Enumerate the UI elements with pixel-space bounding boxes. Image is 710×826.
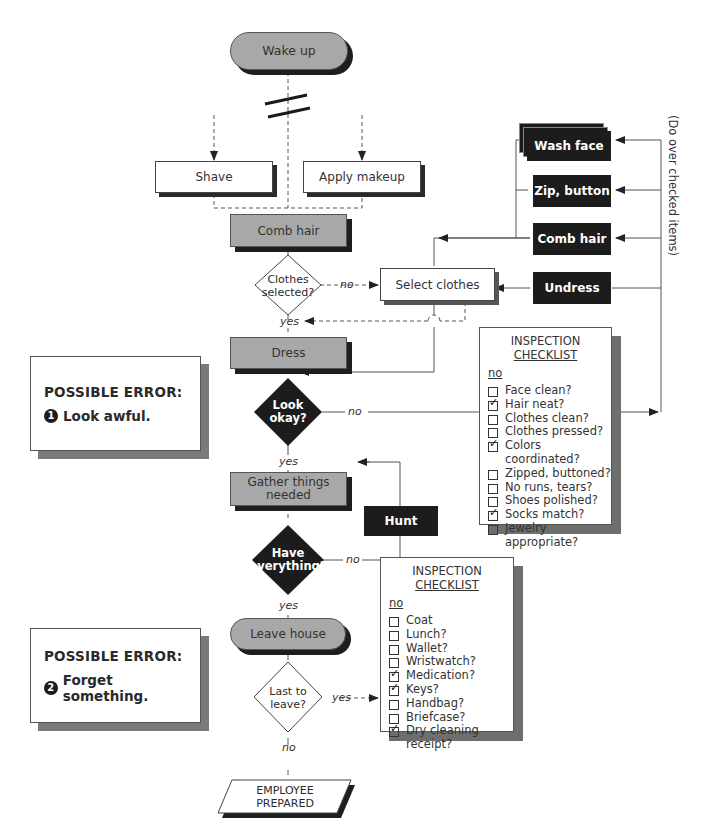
dress-box: Dress xyxy=(230,337,347,369)
checklist-title-line1: INSPECTION xyxy=(412,564,482,578)
error-text: Forget something. xyxy=(63,672,200,704)
no-label-last: no xyxy=(282,741,296,754)
checklist-item: Jewelry appropriate? xyxy=(488,522,611,550)
leave-house-terminal: Leave house xyxy=(230,618,346,650)
checklist-item-label: Hair neat? xyxy=(505,398,564,412)
last-to-leave-text: Last toleave? xyxy=(254,684,322,712)
comb-hair-label: Comb hair xyxy=(257,224,319,238)
gather-line2: needed xyxy=(266,488,311,502)
flowchart-canvas: Wake up Shave Apply makeup Comb hair Clo… xyxy=(0,0,710,826)
have-line1: Have xyxy=(272,546,305,560)
undress-box: Undress xyxy=(533,272,611,304)
select-clothes-label: Select clothes xyxy=(395,278,479,292)
shave-box: Shave xyxy=(155,161,273,193)
checklist-item-label: Handbag? xyxy=(406,697,464,711)
checklist-item-label: Shoes polished? xyxy=(505,494,598,508)
checklist-item: Medication? xyxy=(389,669,513,683)
checklist-item-label: No runs, tears? xyxy=(505,481,592,495)
checklist-item: Clothes pressed? xyxy=(488,425,611,439)
checklist-item: No runs, tears? xyxy=(488,481,611,495)
last-line2: leave? xyxy=(270,698,306,711)
look-line1: Look xyxy=(273,398,304,412)
comb-hair-box: Comb hair xyxy=(230,214,347,247)
checklist-item-label: Medication? xyxy=(406,669,475,683)
possible-error-2: POSSIBLE ERROR: 2 Forget something. xyxy=(30,628,201,723)
gather-things-box: Gather thingsneeded xyxy=(230,472,347,506)
look-line2: okay? xyxy=(269,411,306,425)
checklist-item-label: Clothes clean? xyxy=(505,412,589,426)
error-title: POSSIBLE ERROR: xyxy=(44,648,200,664)
zip-button-box: Zip, button xyxy=(533,175,611,207)
unchecked-box-icon xyxy=(488,525,498,535)
wash-face-box: Wash face xyxy=(527,131,611,161)
have-everything-text: Haveeverything? xyxy=(252,546,324,574)
checklist-item-line: Dry cleaning xyxy=(406,723,479,737)
checklist-item: Clothes clean? xyxy=(488,412,611,426)
do-over-note: (Do over checked items) xyxy=(666,115,680,256)
unchecked-box-icon xyxy=(389,700,399,710)
employee-prepared-text: EMPLOYEEPREPARED xyxy=(225,782,345,812)
number-1-icon: 1 xyxy=(44,409,58,423)
checklist-title-line1: INSPECTION xyxy=(511,334,581,348)
checklist-item: Socks match? xyxy=(488,508,611,522)
error-item: 1 Look awful. xyxy=(44,408,200,424)
error-title: POSSIBLE ERROR: xyxy=(44,384,200,400)
inspection-checklist-items: INSPECTION CHECKLIST no CoatLunch?Wallet… xyxy=(380,557,514,732)
look-okay-text: Lookokay? xyxy=(254,398,322,426)
checklist-no-header: no xyxy=(389,596,513,610)
unchecked-box-icon xyxy=(389,631,399,641)
checklist-item-label: Clothes pressed? xyxy=(505,425,603,439)
inspection-checklist-appearance: INSPECTION CHECKLIST no Face clean?Hair … xyxy=(479,327,612,525)
clothes-selected-text: Clothesselected? xyxy=(255,272,321,300)
leave-house-label: Leave house xyxy=(250,627,326,641)
unchecked-box-icon xyxy=(488,415,498,425)
dress-label: Dress xyxy=(272,346,306,360)
last-line1: Last to xyxy=(269,685,306,698)
checklist-title-line2: CHECKLIST xyxy=(415,578,479,592)
clothes-line1: Clothes xyxy=(267,273,308,286)
checklist-item-label: Jewelry appropriate? xyxy=(505,522,611,550)
undress-label: Undress xyxy=(544,281,599,295)
checklist-item: Colors coordinated? xyxy=(488,439,611,467)
unchecked-box-icon xyxy=(389,645,399,655)
unchecked-box-icon xyxy=(389,617,399,627)
checklist-item-label: Colors coordinated? xyxy=(505,439,611,467)
checklist-item: Coat xyxy=(389,614,513,628)
checklist-item: Face clean? xyxy=(488,384,611,398)
wake-up-label: Wake up xyxy=(262,44,316,58)
clothes-line2: selected? xyxy=(262,286,314,299)
gather-line1: Gather things xyxy=(247,475,329,489)
checklist-item: Wallet? xyxy=(389,642,513,656)
checklist-item: Lunch? xyxy=(389,628,513,642)
checked-box-icon xyxy=(488,442,498,452)
checklist-item-label: Briefcase? xyxy=(406,711,465,725)
checklist-item-label: Dry cleaningreceipt? xyxy=(406,724,479,752)
end-line2: PREPARED xyxy=(256,797,314,810)
zip-button-label: Zip, button xyxy=(534,184,610,198)
yes-label-last: yes xyxy=(332,691,351,704)
checklist-item: Handbag? xyxy=(389,697,513,711)
comb-hair-rework-box: Comb hair xyxy=(533,223,611,255)
checked-box-icon xyxy=(488,401,498,411)
no-label-look: no xyxy=(348,405,362,418)
checklist-item-label: Lunch? xyxy=(406,628,447,642)
checked-box-icon xyxy=(488,511,498,521)
checklist-item-label: Coat xyxy=(406,614,433,628)
checklist-item: Zipped, buttoned? xyxy=(488,467,611,481)
comb-hair-rework-label: Comb hair xyxy=(538,232,607,246)
checked-box-icon xyxy=(389,686,399,696)
apply-makeup-box: Apply makeup xyxy=(303,161,421,193)
unchecked-box-icon xyxy=(488,484,498,494)
checklist-item-label: Wallet? xyxy=(406,642,448,656)
checked-box-icon xyxy=(389,727,399,737)
yes-label-look: yes xyxy=(279,455,298,468)
hunt-box: Hunt xyxy=(364,506,438,536)
checklist-item-label: Face clean? xyxy=(505,384,572,398)
yes-label-have: yes xyxy=(279,599,298,612)
have-line2: everything? xyxy=(250,559,327,573)
number-2-icon: 2 xyxy=(44,681,58,695)
checklist-item: Dry cleaningreceipt? xyxy=(389,724,513,752)
yes-label-clothes: yes xyxy=(280,315,299,328)
wash-face-label: Wash face xyxy=(534,139,603,153)
error-item: 2 Forget something. xyxy=(44,672,200,704)
